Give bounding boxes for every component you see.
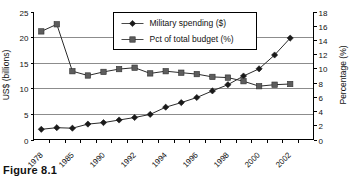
x-axis-tick-label: 1992 — [119, 150, 138, 169]
data-point-marker — [225, 82, 231, 88]
chart-canvas: 197819851990199219941996199820002002 051… — [0, 0, 353, 183]
y-axis-left-tick-label: 15 — [20, 60, 29, 69]
x-axis-ticks: 197819851990199219941996199820002002 — [26, 140, 299, 170]
data-point-marker — [179, 70, 184, 75]
data-point-marker — [38, 126, 44, 132]
y-axis-right-tick-label: 8 — [319, 80, 324, 89]
chart-legend: Military spending ($)Pct of total budget… — [114, 13, 257, 50]
data-point-marker — [69, 125, 75, 131]
x-axis-tick-label: 1994 — [150, 150, 169, 169]
y-axis-right-ticks: 024681012141618 — [314, 9, 328, 146]
data-point-marker — [240, 73, 246, 79]
y-axis-right-tick-label: 16 — [319, 23, 328, 32]
x-axis-tick-label: 2000 — [243, 150, 262, 169]
y-axis-right-tick-label: 18 — [319, 9, 328, 18]
y-axis-left-tick-label: 10 — [20, 85, 29, 94]
y-axis-right-tick-label: 14 — [319, 37, 328, 46]
legend-label: Military spending ($) — [150, 18, 227, 28]
data-point-marker — [256, 84, 261, 89]
figure-caption: Figure 8.1 — [3, 164, 57, 176]
y-axis-left-ticks: 0510152025 — [20, 9, 34, 146]
y-axis-right-tick-label: 4 — [319, 108, 324, 117]
data-point-marker — [70, 69, 75, 74]
x-axis-tick-label: 1998 — [212, 150, 231, 169]
y-axis-left-tick-label: 20 — [20, 34, 29, 43]
data-point-marker — [54, 22, 59, 27]
data-point-marker — [132, 65, 137, 70]
data-point-marker — [85, 73, 90, 78]
y-axis-left-tick-label: 5 — [24, 111, 29, 120]
data-point-marker — [148, 71, 153, 76]
data-point-marker — [272, 82, 277, 87]
y-axis-right-tick-label: 0 — [319, 137, 324, 146]
data-point-marker — [100, 120, 106, 126]
data-point-marker — [225, 75, 230, 80]
y-axis-left-tick-label: 25 — [20, 9, 29, 18]
figure-container: 197819851990199219941996199820002002 051… — [0, 0, 353, 183]
y-axis-right-tick-label: 6 — [319, 94, 324, 103]
data-point-marker — [163, 104, 169, 110]
data-point-marker — [163, 69, 168, 74]
x-axis-tick-label: 1985 — [57, 150, 76, 169]
data-point-marker — [39, 29, 44, 34]
data-point-marker — [116, 117, 122, 123]
data-point-marker — [194, 71, 199, 76]
x-axis-tick-label: 1996 — [181, 150, 200, 169]
data-point-marker — [116, 66, 121, 71]
y-axis-left-title: US$ (billions) — [1, 50, 11, 101]
data-point-marker — [132, 114, 138, 120]
legend-marker — [130, 37, 135, 42]
y-axis-right-tick-label: 12 — [319, 51, 328, 60]
data-point-marker — [147, 111, 153, 117]
x-axis-tick-label: 2002 — [274, 150, 293, 169]
data-point-marker — [194, 94, 200, 100]
y-axis-right-tick-label: 10 — [319, 65, 328, 74]
data-point-marker — [288, 81, 293, 86]
data-point-marker — [101, 69, 106, 74]
data-point-marker — [178, 100, 184, 106]
y-axis-right-title: Percentage (%) — [338, 45, 348, 104]
data-point-marker — [54, 125, 60, 131]
x-axis-tick-label: 1990 — [88, 150, 107, 169]
y-axis-left-tick-label: 0 — [24, 137, 29, 146]
legend-label: Pct of total budget (%) — [150, 34, 234, 44]
data-point-marker — [210, 74, 215, 79]
data-point-marker — [85, 121, 91, 127]
y-axis-right-tick-label: 2 — [319, 122, 324, 131]
data-point-marker — [241, 79, 246, 84]
